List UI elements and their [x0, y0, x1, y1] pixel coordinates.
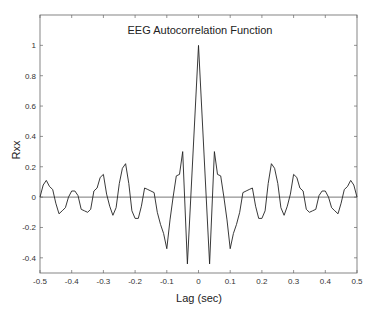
- x-tick-label: -0.2: [128, 277, 142, 286]
- y-tick-label: 1: [32, 41, 37, 50]
- x-tick-label: 0.3: [288, 277, 300, 286]
- x-tick-label: -0.5: [33, 277, 47, 286]
- x-axis-label: Lag (sec): [176, 292, 222, 304]
- y-tick-label: 0.6: [25, 102, 37, 111]
- y-tick-label: -0.4: [22, 254, 36, 263]
- autocorrelation-chart: -0.5-0.4-0.3-0.2-0.100.10.20.30.40.5-0.4…: [0, 0, 371, 311]
- x-tick-label: 0.2: [256, 277, 268, 286]
- y-tick-label: 0.4: [25, 132, 37, 141]
- x-tick-label: 0.1: [225, 277, 237, 286]
- x-tick-label: 0.4: [320, 277, 332, 286]
- y-tick-label: 0: [32, 193, 37, 202]
- y-tick-label: -0.2: [22, 223, 36, 232]
- x-tick-label: 0: [196, 277, 201, 286]
- x-tick-label: -0.4: [65, 277, 79, 286]
- y-tick-label: 0.8: [25, 72, 37, 81]
- chart-title: EEG Autocorrelation Function: [128, 24, 273, 36]
- y-tick-label: 0.2: [25, 163, 37, 172]
- x-tick-label: 0.5: [351, 277, 363, 286]
- x-tick-label: -0.3: [97, 277, 111, 286]
- x-tick-label: -0.1: [160, 277, 174, 286]
- y-axis-label: Rxx: [10, 140, 22, 159]
